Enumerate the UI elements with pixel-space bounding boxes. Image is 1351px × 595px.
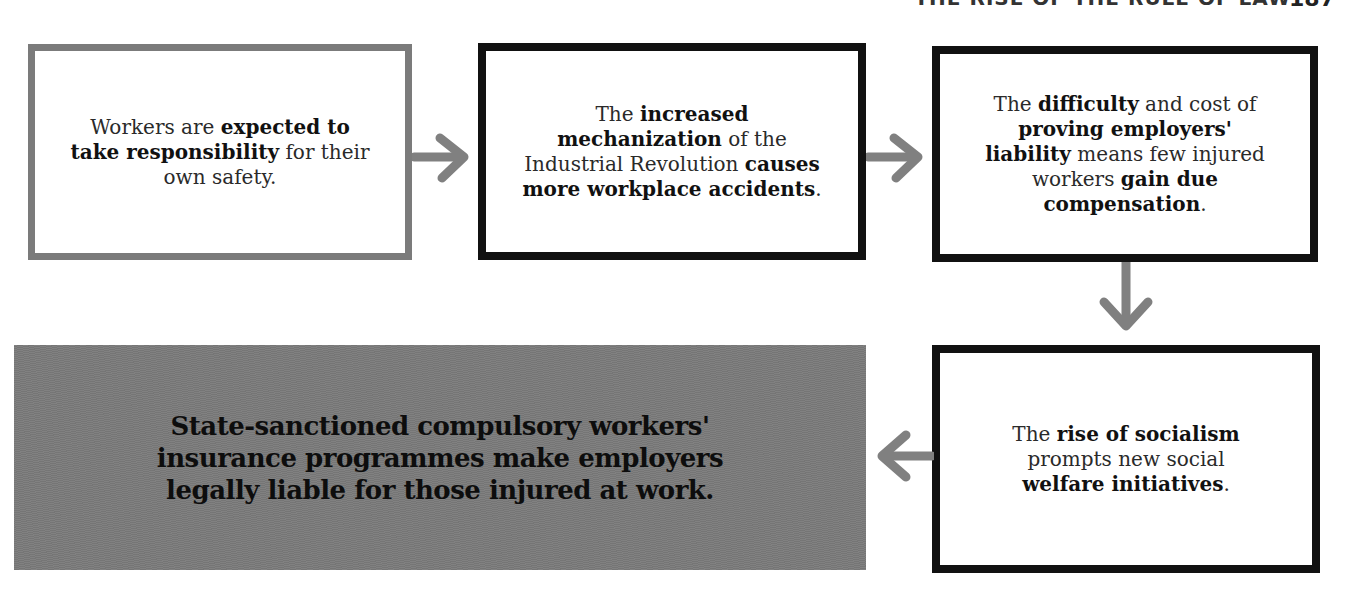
flow-step-3: The difficulty and cost of proving emplo… xyxy=(932,46,1318,262)
text-segment: . xyxy=(815,177,821,201)
flow-step-2-text: The increased mechanization of the Indus… xyxy=(512,102,832,202)
arrow-right-icon xyxy=(866,128,926,188)
text-segment: The xyxy=(596,102,640,126)
flow-step-4: The rise of socialism prompts new social… xyxy=(932,345,1320,573)
arrow-left-icon xyxy=(874,425,934,485)
flow-step-1: Workers are expected to take responsibil… xyxy=(28,44,412,260)
conclusion-line: insurance programmes make employers xyxy=(157,442,723,474)
page-header: THE RISE OF THE RULE OF LAW 187 xyxy=(0,0,1351,12)
conclusion-line: State-sanctioned compulsory workers' xyxy=(157,410,723,442)
flow-step-2: The increased mechanization of the Indus… xyxy=(478,43,866,260)
text-segment: prompts new social xyxy=(1027,447,1224,471)
flow-step-4-text: The rise of socialism prompts new social… xyxy=(986,422,1266,497)
text-segment: Workers are xyxy=(90,115,221,139)
text-segment: . xyxy=(1223,472,1229,496)
flow-step-3-text: The difficulty and cost of proving emplo… xyxy=(975,92,1275,217)
bold-segment: welfare initiatives xyxy=(1022,472,1223,496)
arrow-right-icon xyxy=(412,128,472,188)
flow-step-1-text: Workers are expected to take responsibil… xyxy=(70,115,370,190)
flow-conclusion-text: State-sanctioned compulsory workers' ins… xyxy=(157,410,723,506)
bold-segment: increased mechanization xyxy=(557,102,748,151)
text-segment: The xyxy=(994,92,1038,116)
flow-conclusion: State-sanctioned compulsory workers' ins… xyxy=(14,345,866,570)
running-title: THE RISE OF THE RULE OF LAW xyxy=(914,0,1291,10)
arrow-down-icon xyxy=(1096,262,1156,334)
bold-segment: rise of socialism xyxy=(1057,422,1240,446)
page-number: 187 xyxy=(1289,0,1335,11)
text-segment: and cost of xyxy=(1139,92,1257,116)
bold-segment: difficulty xyxy=(1038,92,1139,116)
text-segment: The xyxy=(1012,422,1056,446)
conclusion-line: legally liable for those injured at work… xyxy=(157,474,723,506)
text-segment: . xyxy=(1200,192,1206,216)
